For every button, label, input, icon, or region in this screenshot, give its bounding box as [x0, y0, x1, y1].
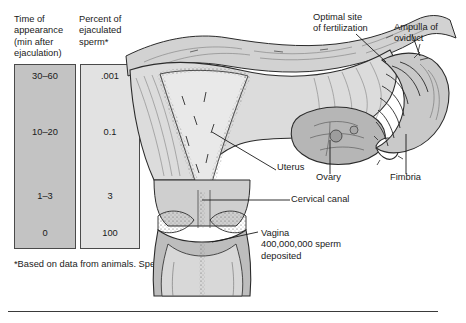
- table-header-time: Time of appearance (min after ejaculatio…: [14, 14, 77, 60]
- label-cervical-canal: Cervical canal: [291, 194, 349, 205]
- cervix: [154, 180, 250, 233]
- table-column-time: 30–60 10–20 1–3 0: [14, 64, 76, 249]
- label-ovary: Ovary: [316, 172, 341, 183]
- figure-root: Time of appearance (min after ejaculatio…: [0, 0, 466, 323]
- label-fimbria: Fimbria: [390, 172, 421, 183]
- table-cell-time-3: 0: [15, 228, 75, 239]
- table-header-row: Time of appearance (min after ejaculatio…: [14, 14, 140, 60]
- data-table: Time of appearance (min after ejaculatio…: [14, 14, 140, 249]
- bottom-divider: [8, 311, 438, 312]
- label-vagina: Vagina 400,000,000 sperm deposited: [261, 228, 341, 262]
- ovary: [291, 107, 385, 165]
- table-body: 30–60 10–20 1–3 0 .001 0.1 3 100: [14, 64, 140, 249]
- label-optimal-site: Optimal site of fertilization: [313, 12, 368, 35]
- label-ampulla: Ampulla of oviduct: [394, 22, 438, 45]
- table-cell-time-2: 1–3: [15, 191, 75, 202]
- table-cell-time-1: 10–20: [15, 127, 75, 138]
- vagina: [153, 230, 251, 296]
- table-cell-time-0: 30–60: [15, 71, 75, 82]
- label-uterus: Uterus: [277, 162, 304, 173]
